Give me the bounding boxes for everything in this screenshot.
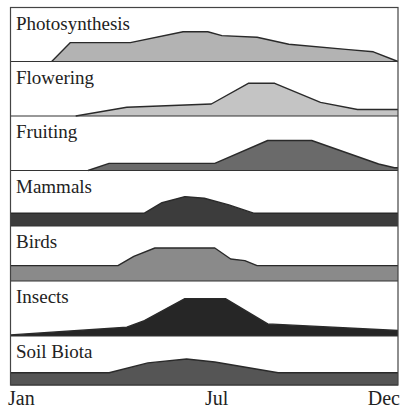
x-tick-jul: Jul xyxy=(205,387,229,409)
area-series xyxy=(11,359,399,385)
panel-soil-biota: Soil Biota xyxy=(11,341,399,385)
panel-stack: PhotosynthesisFloweringFruitingMammalsBi… xyxy=(11,13,399,386)
panel-insects: Insects xyxy=(11,286,399,336)
panel-birds: Birds xyxy=(11,231,399,281)
panel-label: Soil Biota xyxy=(16,341,93,362)
x-tick-dec: Dec xyxy=(368,387,400,409)
area-series xyxy=(11,248,399,281)
area-series xyxy=(76,83,398,116)
panel-label: Mammals xyxy=(16,176,92,197)
panel-photosynthesis: Photosynthesis xyxy=(11,13,399,62)
panel-flowering: Flowering xyxy=(11,67,399,117)
panel-fruiting: Fruiting xyxy=(11,121,399,171)
area-series xyxy=(11,197,399,226)
area-series xyxy=(88,141,398,171)
panel-label: Birds xyxy=(16,231,57,252)
panel-label: Photosynthesis xyxy=(16,13,130,34)
panel-mammals: Mammals xyxy=(11,176,399,227)
phenology-chart: PhotosynthesisFloweringFruitingMammalsBi… xyxy=(0,0,402,412)
panel-label: Insects xyxy=(16,286,69,307)
panel-label: Fruiting xyxy=(16,121,78,142)
panel-label: Flowering xyxy=(16,67,95,88)
x-tick-jan: Jan xyxy=(8,387,35,409)
